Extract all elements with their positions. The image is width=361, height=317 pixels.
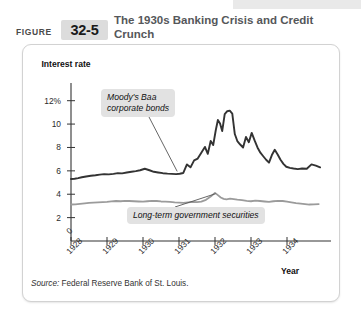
source-note: Source: Federal Reserve Bank of St. Loui…: [31, 279, 188, 288]
figure-card: Interest rate Year Moody's Baa corporate…: [22, 44, 340, 302]
y-axis-tick-label: 10: [35, 119, 61, 129]
figure-title: The 1930s Banking Crisis and Credit Crun…: [114, 14, 314, 41]
chart-plot: [23, 45, 339, 301]
y-axis-tick-label: 12%: [35, 96, 61, 106]
source-text: Federal Reserve Bank of St. Louis.: [59, 279, 188, 288]
y-axis-tick-label: 4: [35, 189, 61, 199]
y-axis-tick-label: 6: [35, 166, 61, 176]
y-axis-tick-label: 8: [35, 142, 61, 152]
figure-label: FIGURE: [16, 27, 52, 37]
figure-number-badge: 32-5: [61, 20, 108, 40]
y-axis-tick-label: 2: [35, 213, 61, 223]
figure-heading: FIGURE 32-5 The 1930s Banking Crisis and…: [0, 8, 361, 42]
source-prefix: Source:: [31, 279, 59, 288]
annotation-gov-securities: Long-term government securities: [127, 207, 265, 224]
annotation-baa-bonds: Moody's Baa corporate bonds: [101, 89, 175, 117]
